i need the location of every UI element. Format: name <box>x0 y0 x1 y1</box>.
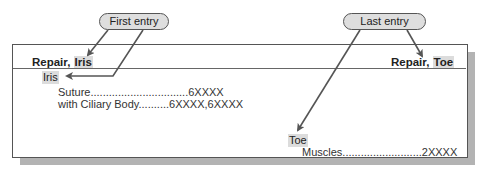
subterm-code: 6XXXX <box>188 86 223 98</box>
subterm-label: with Ciliary Body <box>58 98 139 110</box>
callout-last-entry: Last entry <box>343 13 426 30</box>
subterm-suture: Suture................................6X… <box>58 86 224 98</box>
dot-leader: .......... <box>139 98 170 110</box>
subterm-code: 6XXXX,6XXXX <box>169 98 243 110</box>
header-first-main: Repair, <box>32 56 74 68</box>
page-shadow-right <box>467 52 475 165</box>
dot-leader: .......................... <box>342 146 421 158</box>
subterm-label: Muscles <box>302 146 342 158</box>
header-last-entry: Repair, Toe <box>391 56 454 69</box>
subterm-code: 2XXXX <box>422 146 457 158</box>
callout-first-entry: First entry <box>99 13 169 30</box>
header-last-highlight: Toe <box>433 56 455 68</box>
header-last-main: Repair, <box>391 56 433 68</box>
subterm-label: Suture <box>58 86 90 98</box>
header-first-entry: Repair, Iris <box>32 56 93 69</box>
page-shadow-bottom <box>20 157 475 165</box>
dot-leader: ................................ <box>90 86 188 98</box>
subterm-ciliary-body: with Ciliary Body..........6XXXX,6XXXX <box>58 98 243 110</box>
header-first-highlight: Iris <box>74 56 93 68</box>
subterm-muscles: Muscles..........................2XXXX <box>302 146 457 158</box>
index-term-iris: Iris <box>42 71 59 84</box>
